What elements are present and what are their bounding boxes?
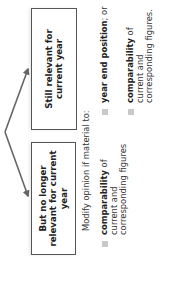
- bullet-marker-icon: [102, 109, 108, 115]
- box-still-relevant: Still relevant for current year: [31, 8, 77, 130]
- bullet-bold-text: comparability: [125, 38, 135, 103]
- box-still-relevant-label: Still relevant for current year: [44, 15, 65, 123]
- bullet-bold-text: comparability: [99, 170, 109, 235]
- bullet-marker-icon: [128, 109, 134, 115]
- bullet-comparability-left: comparability of current and correspondi…: [100, 140, 129, 235]
- box-no-longer-relevant: But no longer relevant for current year: [31, 142, 76, 255]
- diagram-canvas: But no longer relevant for current year …: [0, 0, 175, 281]
- bullet-rest-text: ; or: [99, 6, 109, 20]
- arrow-to-no-longer-relevant: [5, 132, 28, 196]
- modify-opinion-text: Modify opinion if material to:: [81, 61, 92, 231]
- bullet-bold-text: year end position: [99, 20, 109, 103]
- bullet-comparability-right: comparability of current and correspondi…: [126, 3, 155, 103]
- box-no-longer-relevant-label: But no longer relevant for current year: [38, 149, 70, 248]
- arrow-to-still-relevant: [5, 69, 28, 132]
- bullet-year-end-position: year end position; or: [100, 3, 110, 103]
- bullet-marker-icon: [102, 241, 108, 247]
